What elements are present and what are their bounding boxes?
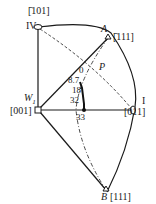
iv-label: IV — [26, 21, 37, 31]
a-label: A — [101, 24, 107, 34]
p-label: P — [99, 62, 105, 72]
strain-33: 33 — [76, 113, 85, 122]
b-label: B — [101, 192, 107, 202]
strain-18: 18 — [72, 86, 81, 95]
w1-b-line — [40, 112, 106, 190]
strain-0: 0 — [79, 66, 84, 75]
pole-w1-marker — [35, 107, 41, 113]
strain-32: 32 — [70, 96, 79, 105]
strain-8-7: 8.7 — [68, 76, 79, 85]
i-index-label: [011] — [124, 107, 145, 117]
w1-index-label: [001] — [10, 106, 32, 116]
iv-index-label: [̄101] — [28, 6, 50, 16]
i-label: I — [142, 96, 145, 106]
a-index-label: [̄111] — [113, 32, 134, 42]
b-index-label: [111] — [110, 192, 131, 202]
pole-a-marker — [105, 34, 111, 39]
